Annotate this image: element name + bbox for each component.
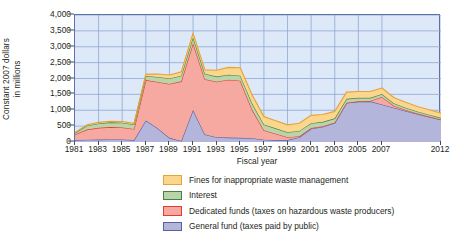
y-axis-tick-label: 1,500 — [37, 88, 71, 98]
x-axis-tick-label: 2001 — [301, 144, 320, 154]
x-axis-tick-label: 1989 — [159, 144, 178, 154]
y-axis-tick-label: 1,000 — [37, 104, 71, 114]
x-axis-label: Fiscal year — [74, 156, 440, 166]
x-axis-tick-label: 1995 — [230, 144, 249, 154]
legend-label: Fines for inappropriate waste management — [189, 175, 348, 185]
y-axis-tick-label: 3,500 — [37, 25, 71, 35]
legend-item[interactable]: Interest — [163, 188, 453, 204]
y-axis-tick-label: 2,500 — [37, 57, 71, 67]
x-axis-tick-label: 1985 — [112, 144, 131, 154]
x-axis-tick-label: 1993 — [206, 144, 225, 154]
x-axis-tick-label: 1997 — [254, 144, 273, 154]
y-axis-label: Constant 2007 dollars in millions — [2, 14, 28, 144]
legend-swatch-icon — [163, 206, 182, 216]
legend-swatch-icon — [163, 175, 182, 185]
y-axis-tick-label: 3,000 — [37, 41, 71, 51]
x-axis-tick-label: 1999 — [277, 144, 296, 154]
plot-area — [74, 14, 440, 141]
x-axis-tick-label: 2012 — [431, 144, 450, 154]
legend-label: Dedicated funds (taxes on hazardous wast… — [189, 206, 394, 216]
x-axis-tick-label: 2005 — [348, 144, 367, 154]
y-axis-tick-label: 500 — [37, 120, 71, 130]
chart-figure: Constant 2007 dollars in millions 05001,… — [0, 0, 461, 239]
legend-label: General fund (taxes paid by public) — [189, 221, 319, 231]
legend-item[interactable]: Fines for inappropriate waste management — [163, 172, 453, 188]
x-axis-tick-label: 1991 — [183, 144, 202, 154]
x-axis-tick-label: 2007 — [372, 144, 391, 154]
legend-swatch-icon — [163, 222, 182, 232]
y-axis-label-line1: Constant 2007 dollars — [2, 38, 11, 120]
x-axis-tick-label: 1983 — [88, 144, 107, 154]
legend-item[interactable]: Dedicated funds (taxes on hazardous wast… — [163, 203, 453, 219]
y-axis-tick-label: 4,000 — [37, 9, 71, 19]
chart-legend: Fines for inappropriate waste management… — [163, 172, 453, 234]
stacked-area-svg — [75, 15, 441, 142]
legend-item[interactable]: General fund (taxes paid by public) — [163, 219, 453, 235]
y-axis-tick-label: 2,000 — [37, 73, 71, 83]
x-axis-tick-label: 2003 — [324, 144, 343, 154]
x-axis-tick-label: 1987 — [136, 144, 155, 154]
y-axis-tick-labels: 05001,0001,5002,0002,5003,0003,5004,000 — [33, 14, 71, 141]
legend-swatch-icon — [163, 191, 182, 201]
x-axis-tick-label: 1981 — [65, 144, 84, 154]
y-axis-label-line2: in millions — [13, 60, 22, 97]
legend-label: Interest — [189, 190, 217, 200]
